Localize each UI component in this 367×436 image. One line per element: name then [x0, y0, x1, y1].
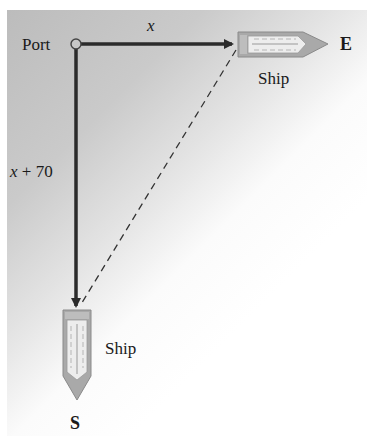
- south-distance-expression: + 70: [18, 162, 53, 181]
- distance-between-ships-dashed-line: [80, 50, 236, 306]
- east-direction-label: E: [340, 35, 352, 53]
- south-distance-variable: x: [10, 162, 18, 181]
- south-distance-label: x + 70: [10, 163, 53, 180]
- south-ship-label: Ship: [105, 340, 136, 357]
- south-direction-label: S: [70, 414, 80, 432]
- south-ship-icon: [63, 310, 91, 400]
- port-label: Port: [22, 36, 50, 53]
- east-distance-label: x: [147, 17, 155, 34]
- diagram-canvas: [0, 0, 367, 436]
- east-ship-label: Ship: [258, 70, 289, 87]
- port-icon: [71, 39, 81, 49]
- east-ship-icon: [238, 32, 328, 57]
